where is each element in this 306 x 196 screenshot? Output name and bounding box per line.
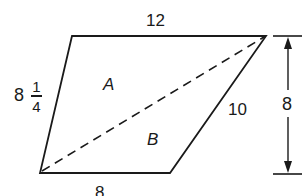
arrowhead-up-icon (284, 37, 292, 49)
region-a-label: A (103, 76, 114, 93)
left-side-label-whole: 8 (14, 86, 24, 104)
bottom-side-label: 8 (95, 184, 104, 196)
fraction-bar (31, 95, 42, 97)
arrowhead-down-icon (284, 161, 292, 173)
fraction-numerator: 1 (32, 79, 40, 94)
top-side-label: 12 (146, 12, 165, 29)
height-label: 8 (282, 95, 292, 113)
left-side-label-fraction: 1 4 (31, 79, 42, 114)
region-b-label: B (147, 131, 158, 148)
fraction-denominator: 4 (32, 99, 40, 114)
right-side-label: 10 (228, 101, 247, 118)
